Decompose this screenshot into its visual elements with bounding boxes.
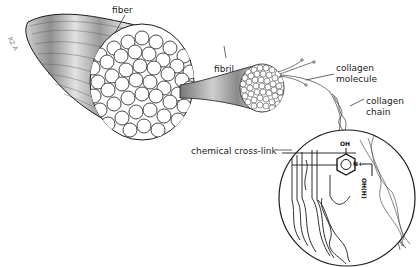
collagen-molecules — [278, 59, 330, 92]
label-fiber: fiber — [112, 5, 133, 15]
label-collagen-chain-1: collagen — [366, 96, 404, 106]
chem-oh: OH — [340, 140, 350, 147]
label-collagen-molecule-2: molecule — [336, 74, 377, 84]
cross-link-magnifier — [279, 130, 415, 266]
fiber-body — [26, 14, 197, 140]
chem-ohh: OH(H) — [361, 178, 368, 199]
label-fibril: fibril — [214, 64, 234, 74]
collagen-diagram — [0, 0, 420, 267]
label-collagen-molecule-1: collagen — [336, 63, 374, 73]
chem-n-plus: N+ — [353, 160, 363, 167]
label-collagen-chain-2: chain — [366, 107, 390, 117]
label-chemical-cross-link: chemical cross-link — [191, 146, 277, 156]
